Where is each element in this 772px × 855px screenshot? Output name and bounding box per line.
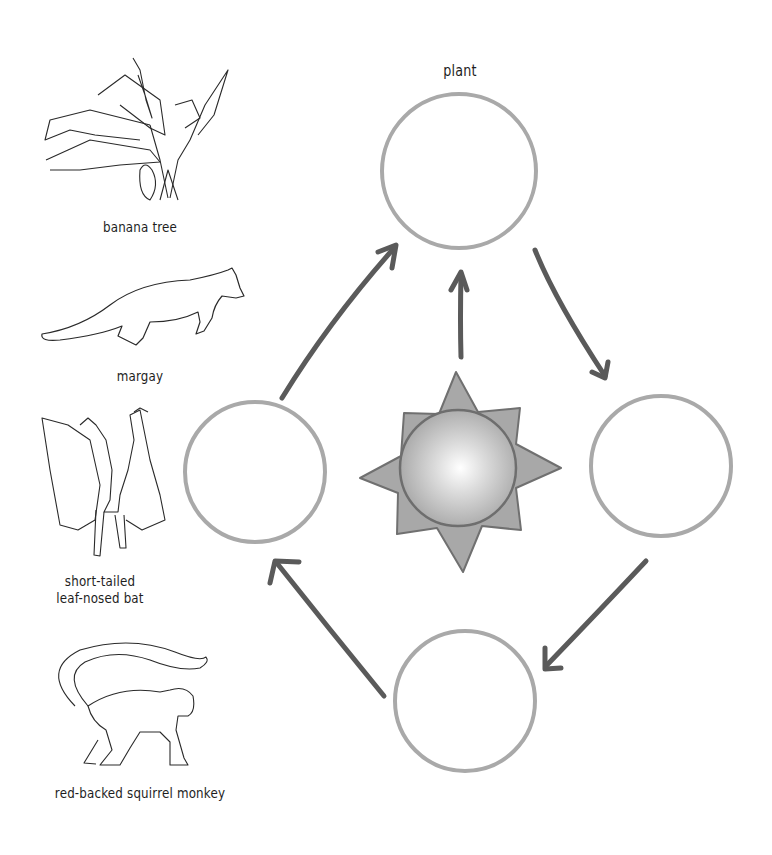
bat-illustration (42, 408, 165, 556)
organism-label-bat-line2: leaf-nosed bat (41, 590, 160, 606)
arrow-sun-to-plant (451, 272, 467, 357)
arrow-plant-to-right (535, 250, 608, 378)
organism-label-banana-tree: banana tree (89, 219, 191, 235)
banana-tree-illustration (45, 58, 228, 200)
node-label-plant: plant (435, 63, 486, 79)
node-circle-bottom[interactable] (395, 631, 535, 771)
organism-label-squirrel-monkey: red-backed squirrel monkey (38, 785, 242, 801)
arrow-bottom-to-left (270, 561, 384, 696)
margay-illustration (42, 268, 244, 345)
squirrel-monkey-illustration (59, 643, 207, 765)
arrow-right-to-bottom (545, 561, 646, 669)
arrow-left-to-plant (282, 245, 396, 398)
organism-label-bat-line1: short-tailed (49, 573, 151, 589)
organism-label-margay: margay (106, 368, 174, 384)
node-circle-right[interactable] (591, 396, 731, 536)
node-circle-left[interactable] (185, 402, 325, 542)
sun-icon (360, 372, 561, 572)
node-circle-top[interactable] (382, 94, 536, 248)
